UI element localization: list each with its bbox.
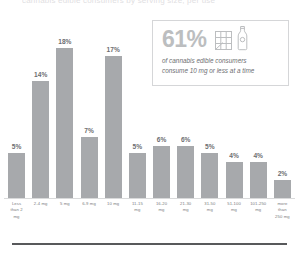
x-tick-label: 21-30 mg <box>177 201 194 241</box>
bar-value-label: 5% <box>133 144 143 151</box>
bar-value-label: 4% <box>253 153 263 160</box>
bar[interactable] <box>226 162 243 198</box>
x-axis-line <box>4 198 295 199</box>
x-tick-label: more than 250 mg <box>274 201 291 241</box>
callout-stat-value: 61% <box>162 28 207 51</box>
bar-value-label: 17% <box>107 47 120 54</box>
bar-group[interactable]: 17% <box>105 30 122 198</box>
callout-description-line1: of cannabis edible consumers <box>162 56 280 66</box>
bar[interactable] <box>81 137 98 198</box>
x-tick-label: Less than 2 mg <box>8 201 25 241</box>
x-tick-label: 10 mg <box>105 201 122 241</box>
x-tick-label: 31-50 mg <box>201 201 218 241</box>
bar[interactable] <box>177 146 194 198</box>
callout-description-line2: consume 10 mg or less at a time <box>162 66 280 76</box>
x-tick-label: 5 mg <box>56 201 73 241</box>
bar[interactable] <box>129 153 146 198</box>
callout-header-row: 61% <box>153 21 288 53</box>
bar-value-label: 14% <box>34 72 47 79</box>
bar-value-label: 18% <box>58 39 71 46</box>
bar[interactable] <box>8 153 25 198</box>
bar-value-label: 5% <box>12 144 22 151</box>
bar-value-label: 5% <box>205 144 215 151</box>
beverage-bottle-icon <box>236 25 249 55</box>
bar[interactable] <box>105 56 122 198</box>
x-tick-label: 101-250 mg <box>250 201 267 241</box>
x-axis-tick-labels: Less than 2 mg 2-4 mg 5 mg 6-9 mg 10 mg … <box>8 201 291 241</box>
bar-value-label: 6% <box>157 137 167 144</box>
bar[interactable] <box>250 162 267 198</box>
bar-value-label: 7% <box>84 128 94 135</box>
bar[interactable] <box>56 48 73 198</box>
callout-icon-group <box>214 25 249 55</box>
bar-group[interactable]: 5% <box>8 30 25 198</box>
chart-figure: cannabis edible consumers by serving siz… <box>0 0 299 257</box>
statistic-callout-box: 61% <box>152 20 289 86</box>
callout-description: of cannabis edible consumers consume 10 … <box>153 53 288 76</box>
clipped-title: cannabis edible consumers by serving siz… <box>22 0 252 5</box>
x-tick-label: 11-15 mg <box>129 201 146 241</box>
bar-value-label: 6% <box>181 137 191 144</box>
bar[interactable] <box>153 146 170 198</box>
x-tick-label: 16-20 mg <box>153 201 170 241</box>
bar-group[interactable]: 18% <box>56 30 73 198</box>
x-tick-label: 2-4 mg <box>32 201 49 241</box>
bar[interactable] <box>32 81 49 198</box>
chocolate-bar-icon <box>214 29 233 55</box>
bar-value-label: 4% <box>229 153 239 160</box>
bar[interactable] <box>201 153 218 198</box>
bar-group[interactable]: 14% <box>32 30 49 198</box>
bar[interactable] <box>274 180 291 198</box>
bar-value-label: 2% <box>278 171 288 178</box>
bar-group[interactable]: 5% <box>129 30 146 198</box>
bottom-divider-rule <box>12 243 287 245</box>
x-tick-label: 6-9 mg <box>81 201 98 241</box>
x-tick-label: 51-100 mg <box>226 201 243 241</box>
bar-group[interactable]: 7% <box>81 30 98 198</box>
